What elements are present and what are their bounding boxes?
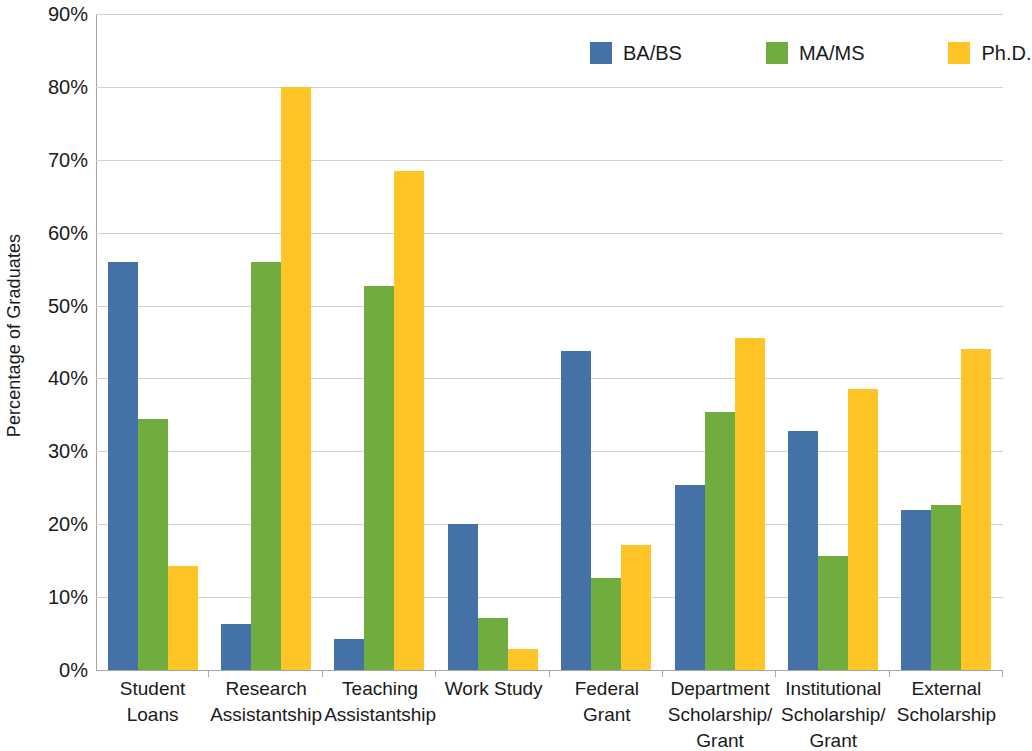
x-axis-tick-label: Research Assistantship: [209, 676, 323, 751]
axis-baseline: [96, 670, 1003, 671]
bar-ph-d[interactable]: [394, 171, 424, 670]
bar-ph-d[interactable]: [848, 389, 878, 670]
y-axis-tick-label: 30%: [48, 440, 88, 463]
legend-swatch-icon: [590, 42, 612, 64]
y-axis-tick-labels: 0%10%20%30%40%50%60%70%80%90%: [28, 0, 96, 700]
bar-group: [663, 14, 776, 670]
legend-item[interactable]: MA/MS: [766, 42, 865, 65]
bar-ph-d[interactable]: [735, 338, 765, 670]
legend-item[interactable]: Ph.D.: [948, 42, 1031, 65]
x-axis-tick-labels: Student LoansResearch AssistantshipTeach…: [96, 676, 1003, 751]
bar-group: [776, 14, 889, 670]
legend-label: BA/BS: [623, 42, 682, 65]
y-axis-tick-label: 0%: [59, 659, 88, 682]
bar-ph-d[interactable]: [961, 349, 991, 670]
bar-ma-ms[interactable]: [818, 556, 848, 670]
y-axis-tick-label: 70%: [48, 148, 88, 171]
bar-group: [436, 14, 549, 670]
bar-ba-bs[interactable]: [108, 262, 138, 670]
plot-area: [96, 14, 1003, 670]
y-axis-tick-label: 40%: [48, 367, 88, 390]
bar-ph-d[interactable]: [508, 649, 538, 670]
bar-group: [550, 14, 663, 670]
x-axis-tick-label: Institutional Scholarship/ Grant: [777, 676, 890, 751]
bar-ma-ms[interactable]: [364, 286, 394, 670]
x-axis-tick-label: Student Loans: [96, 676, 209, 751]
y-axis-tick-label: 60%: [48, 221, 88, 244]
legend-label: Ph.D.: [981, 42, 1031, 65]
x-axis-tick-label: External Scholarship: [890, 676, 1003, 751]
legend-label: MA/MS: [799, 42, 865, 65]
bar-group: [323, 14, 436, 670]
bar-ma-ms[interactable]: [705, 412, 735, 670]
bar-ma-ms[interactable]: [138, 419, 168, 670]
bar-ba-bs[interactable]: [675, 485, 705, 670]
x-axis-tick-label: Federal Grant: [550, 676, 663, 751]
bar-ba-bs[interactable]: [901, 510, 931, 670]
bar-group: [209, 14, 322, 670]
bar-ma-ms[interactable]: [251, 262, 281, 670]
x-axis-tick-label: Department Scholarship/ Grant: [663, 676, 776, 751]
bar-ma-ms[interactable]: [478, 618, 508, 670]
bar-ba-bs[interactable]: [561, 351, 591, 670]
bar-ba-bs[interactable]: [334, 639, 364, 670]
bar-ph-d[interactable]: [621, 545, 651, 670]
legend-swatch-icon: [948, 42, 970, 64]
y-axis-tick-label: 80%: [48, 75, 88, 98]
bar-ma-ms[interactable]: [931, 505, 961, 670]
legend: BA/BSMA/MSPh.D.: [590, 40, 1032, 66]
bar-group: [96, 14, 209, 670]
bar-ph-d[interactable]: [281, 87, 311, 670]
y-axis-tick-label: 50%: [48, 294, 88, 317]
bar-group: [890, 14, 1003, 670]
x-axis-tick-label: Work Study: [437, 676, 550, 751]
legend-item[interactable]: BA/BS: [590, 42, 682, 65]
bar-ba-bs[interactable]: [448, 524, 478, 670]
bar-groups: [96, 14, 1003, 670]
bar-ph-d[interactable]: [168, 566, 198, 670]
bar-ba-bs[interactable]: [788, 431, 818, 670]
legend-swatch-icon: [766, 42, 788, 64]
bar-ma-ms[interactable]: [591, 578, 621, 670]
y-axis-tick-label: 10%: [48, 586, 88, 609]
x-axis-tick-label: Teaching Assistantship: [323, 676, 437, 751]
y-axis-title-text: Percentage of Graduates: [5, 233, 26, 436]
y-axis-tick-label: 20%: [48, 513, 88, 536]
y-axis-title: Percentage of Graduates: [0, 0, 30, 670]
y-axis-tick-label: 90%: [48, 3, 88, 26]
bar-ba-bs[interactable]: [221, 624, 251, 670]
